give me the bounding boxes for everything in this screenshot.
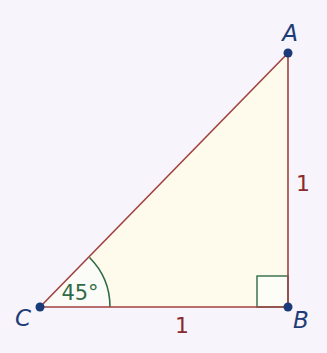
angle-label-c: 45° — [61, 283, 98, 304]
point-c — [36, 303, 45, 312]
right-angle-marker — [257, 276, 288, 307]
triangle-figure — [0, 0, 327, 353]
side-label-cb: 1 — [175, 315, 189, 337]
triangle-diagram: A B C 1 1 45° — [0, 0, 327, 353]
vertex-label-b: B — [293, 309, 309, 332]
vertex-label-c: C — [15, 307, 31, 330]
vertex-label-a: A — [282, 22, 298, 45]
point-b — [284, 303, 293, 312]
side-label-ab: 1 — [296, 173, 310, 195]
point-a — [284, 49, 293, 58]
